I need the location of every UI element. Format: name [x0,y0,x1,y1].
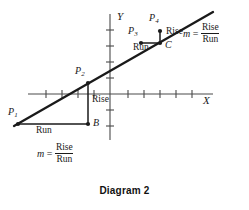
point-label-c: C [165,40,172,52]
y-axis-label: Y [117,11,123,22]
diagram-figure: Y X P1 P2 B P3 P4 C Rise Run Rise Run m … [0,0,249,210]
slope-formula-upper-numerator: Rise [201,22,220,33]
point-dot-b [86,122,90,126]
slope-formula-lower-equals: = [47,148,53,159]
point-dot-p4 [158,29,162,33]
point-dot-p2 [86,81,90,85]
point-label-b: B [93,118,99,130]
point-label-p3: P3 [128,26,138,38]
x-axis-label: X [203,95,210,106]
upper-rise-label: Rise [166,27,183,37]
slope-formula-upper-m: m [183,28,190,39]
point-dot-p1 [16,122,20,126]
point-label-p1: P1 [8,107,18,119]
point-dot-c [158,41,162,45]
slope-formula-lower-fraction: Rise Run [55,142,74,165]
upper-run-label: Run [133,43,149,53]
slope-formula-lower-denominator: Run [55,153,73,165]
slope-formula-upper-equals: = [193,28,199,39]
slope-formula-lower-left: m = Rise Run [37,142,74,165]
lower-run-label: Run [36,126,52,136]
slope-formula-upper-denominator: Run [201,33,219,45]
slope-formula-lower-m: m [37,148,44,159]
point-label-p4: P4 [149,13,159,25]
slope-formula-lower-numerator: Rise [55,142,74,153]
slope-formula-upper-fraction: Rise Run [201,22,220,45]
slope-formula-upper-right: m = Rise Run [183,22,220,45]
lower-rise-label: Rise [92,95,109,105]
figure-caption: Diagram 2 [0,185,249,196]
point-label-p2: P2 [75,66,85,78]
